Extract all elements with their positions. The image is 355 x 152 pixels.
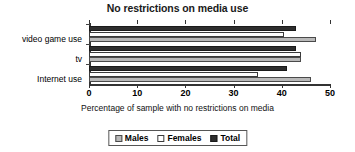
legend-swatch-males bbox=[115, 135, 122, 142]
x-tick-top-50 bbox=[330, 20, 331, 24]
x-axis-line bbox=[89, 84, 331, 86]
bar-total-2 bbox=[89, 66, 287, 71]
legend-item-total: Total bbox=[210, 133, 240, 143]
x-tick-top-40 bbox=[282, 20, 283, 24]
chart-legend: Males Females Total bbox=[108, 130, 247, 146]
y-tick-0 bbox=[86, 24, 90, 25]
category-label-1: tv bbox=[0, 48, 86, 66]
x-tick-top-20 bbox=[185, 20, 186, 24]
chart-container: No restrictions on media use 01020304050… bbox=[0, 0, 355, 152]
category-label-2: Internet use bbox=[0, 68, 86, 86]
legend-swatch-total bbox=[210, 135, 217, 142]
x-tick-top-10 bbox=[137, 20, 138, 24]
category-label-text: Internet use bbox=[37, 74, 86, 84]
legend-label-males: Males bbox=[125, 133, 149, 143]
x-tick-label-20: 20 bbox=[180, 88, 190, 98]
bar-females-0 bbox=[89, 32, 284, 37]
category-label-0: video game use bbox=[0, 28, 86, 46]
chart-title: No restrictions on media use bbox=[0, 2, 355, 14]
x-tick-top-30 bbox=[234, 20, 235, 24]
legend-label-females: Females bbox=[167, 133, 201, 143]
x-tick-label-30: 30 bbox=[229, 88, 239, 98]
legend-item-males: Males bbox=[115, 133, 149, 143]
legend-swatch-females bbox=[157, 135, 164, 142]
bar-males-0 bbox=[89, 37, 316, 42]
y-tick-2 bbox=[86, 64, 90, 65]
legend-item-females: Females bbox=[157, 133, 201, 143]
x-tick-label-50: 50 bbox=[325, 88, 335, 98]
category-label-text: tv bbox=[75, 54, 86, 64]
x-tick-label-40: 40 bbox=[277, 88, 287, 98]
x-tick-label-0: 0 bbox=[86, 88, 91, 98]
bar-total-0 bbox=[89, 26, 296, 31]
bar-total-1 bbox=[89, 46, 296, 51]
bar-females-1 bbox=[89, 52, 301, 57]
y-tick-1 bbox=[86, 44, 90, 45]
x-axis-label: Percentage of sample with no restriction… bbox=[0, 103, 355, 113]
bar-females-2 bbox=[89, 72, 258, 77]
legend-label-total: Total bbox=[220, 133, 240, 143]
bar-males-2 bbox=[89, 77, 311, 82]
category-label-text: video game use bbox=[22, 34, 86, 44]
bar-males-1 bbox=[89, 57, 301, 62]
x-tick-label-10: 10 bbox=[132, 88, 142, 98]
